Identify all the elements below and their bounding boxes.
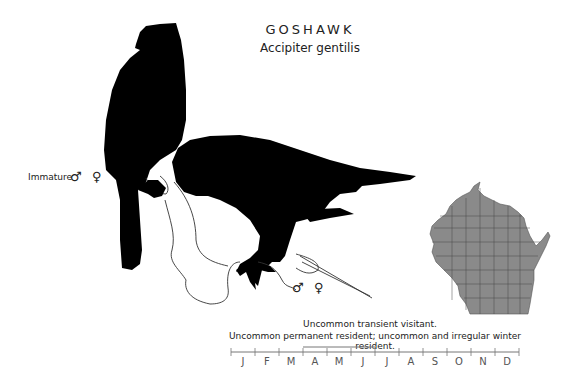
month-label: A xyxy=(303,356,327,367)
month-label: J xyxy=(351,356,375,367)
occurrence-calendar: JFMAMJJASOND xyxy=(225,344,525,374)
month-label: J xyxy=(375,356,399,367)
month-label: F xyxy=(255,356,279,367)
month-label: N xyxy=(471,356,495,367)
month-label: S xyxy=(423,356,447,367)
wisconsin-map-shape xyxy=(430,182,550,314)
month-label: M xyxy=(279,356,303,367)
status-line-transient: Uncommon transient visitant. xyxy=(220,319,520,329)
month-label: D xyxy=(495,356,519,367)
month-label: J xyxy=(231,356,255,367)
month-label: A xyxy=(399,356,423,367)
month-label: M xyxy=(327,356,351,367)
month-label: O xyxy=(447,356,471,367)
